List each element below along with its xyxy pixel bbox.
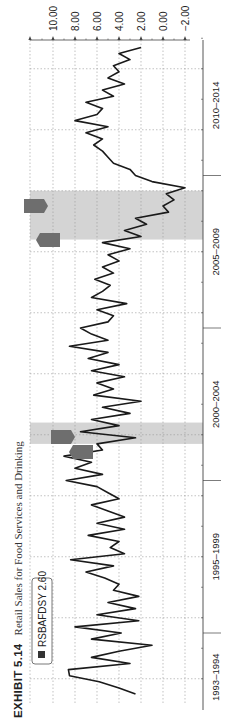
recession-marker-icon [69,445,93,459]
value-tick-label: 6.00 [92,11,103,31]
value-tick [28,36,31,40]
value-tick-label: 8.00 [70,11,81,31]
time-tick-label: 2000–2004 [210,380,221,428]
recession-bands [30,191,203,444]
value-tick-label: −2.00 [180,5,191,31]
time-tick-label: 2005–2009 [210,228,221,276]
exhibit-number: EXHIBIT 5.14 [12,643,24,718]
time-tick-label: 1993–1994 [210,653,221,701]
value-tick [183,36,186,40]
recession-marker-icon [51,430,75,444]
legend-swatch [38,651,45,658]
chart-title: EXHIBIT 5.14Retail Sales for Food Servic… [0,0,24,720]
legend-label: RSBAFDSY 2.60 [37,571,48,647]
value-tick-label: 2.00 [136,11,147,31]
time-axis-labels: 1993–19941995–19992000–20042005–20092010… [210,82,221,701]
value-tick-label: 4.00 [114,11,125,31]
axes [28,36,221,710]
time-tick-label: 1995–1999 [210,533,221,581]
recession-marker-icon [36,233,60,247]
recession-marker-icon [24,199,48,213]
value-axis-labels: 10.008.006.004.002.000.00−2.00 [48,5,191,31]
time-tick-label: 2010–2014 [210,82,221,130]
value-tick [161,36,164,40]
legend: RSBAFDSY 2.60 [32,571,52,664]
value-tick [51,36,54,40]
value-tick [95,36,98,40]
value-tick-label: 10.00 [48,6,59,31]
exhibit-caption: Retail Sales for Food Services and Drink… [12,441,24,635]
value-tick [73,36,76,40]
value-tick-label: 0.00 [158,11,169,31]
value-tick [117,36,120,40]
value-tick [139,36,142,40]
recession-band [30,191,203,240]
series-line-rsbafdsy [64,47,185,694]
chart: 10.008.006.004.002.000.00−2.00 1993–1994… [0,0,233,720]
